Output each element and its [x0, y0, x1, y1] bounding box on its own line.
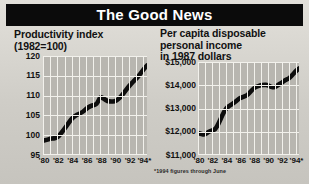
y-axis-tick-label: 115 — [6, 71, 40, 80]
y-axis-tick-label: $11,000 — [154, 151, 196, 160]
gridline-vertical — [57, 56, 58, 155]
page-title: The Good News — [6, 4, 303, 26]
plot-area-productivity — [43, 56, 147, 155]
x-axis-tick-label: '94* — [136, 156, 152, 165]
gridline-vertical — [86, 56, 87, 155]
gridline-vertical — [65, 56, 66, 155]
y-axis-tick-label: $15,000 — [154, 58, 196, 67]
gridline-horizontal — [43, 56, 147, 57]
gridline-vertical — [122, 56, 123, 155]
gridline-vertical — [43, 56, 44, 155]
footnote-text: *1994 figures through June — [154, 168, 226, 174]
series-line-productivity — [43, 56, 147, 155]
gridline-horizontal — [198, 62, 299, 63]
gridline-vertical — [115, 56, 116, 155]
gridline-horizontal — [43, 135, 147, 136]
gridline-vertical — [93, 56, 94, 155]
y-axis-tick-label: 105 — [6, 111, 40, 120]
x-axis-tick-label: '94* — [289, 156, 305, 165]
infographic-page: The Good News Productivity index (1982=1… — [0, 0, 309, 184]
gridline-vertical — [50, 56, 51, 155]
chart-panel-disposable-income: Per capita disposable personal income in… — [152, 26, 307, 184]
gridline-vertical — [72, 56, 73, 155]
gridline-vertical — [108, 56, 109, 155]
gridline-horizontal — [43, 76, 147, 77]
gridline-horizontal — [198, 85, 299, 86]
gridline-horizontal — [43, 115, 147, 116]
gridline-vertical — [143, 56, 144, 155]
chart-title-productivity: Productivity index (1982=100) — [14, 29, 103, 52]
gridline-vertical — [129, 56, 130, 155]
gridline-horizontal — [43, 154, 147, 155]
gridline-vertical — [79, 56, 80, 155]
y-axis-tick-label: 100 — [6, 131, 40, 140]
gridline-horizontal — [198, 132, 299, 133]
plot-area-disposable-income — [198, 62, 299, 155]
gridline-vertical — [100, 56, 101, 155]
y-axis-tick-label: $14,000 — [154, 81, 196, 90]
gridline-horizontal — [198, 109, 299, 110]
y-axis-tick-label: $13,000 — [154, 104, 196, 113]
gridline-vertical — [136, 56, 137, 155]
masthead-band: The Good News — [6, 4, 303, 26]
gridline-horizontal — [43, 96, 147, 97]
y-axis-tick-label: 110 — [6, 91, 40, 100]
y-axis-tick-label: 120 — [6, 52, 40, 61]
y-axis-tick-label: $12,000 — [154, 127, 196, 136]
gridline-horizontal — [198, 154, 299, 155]
chart-panel-productivity: Productivity index (1982=100) 1201151101… — [4, 26, 152, 184]
y-axis-tick-label: 95 — [6, 151, 40, 160]
